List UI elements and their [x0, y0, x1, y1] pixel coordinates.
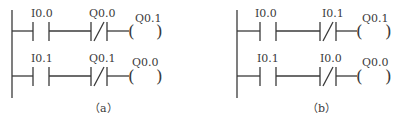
svg-text:): ): [385, 66, 392, 86]
normally-closed-contact-icon: [91, 67, 107, 86]
normally-open-contact-icon: [260, 67, 276, 86]
diagram-caption: （a）: [89, 102, 118, 115]
output-coil-icon: ( ): [128, 66, 163, 86]
svg-text:(: (: [356, 66, 363, 86]
contact-label: Q0.1: [89, 52, 116, 65]
rung-2: I0.1 Q0.1 ( ) Q0.0: [12, 52, 163, 86]
ladder-diagrams: I0.0 Q0.0 ( ) Q0.1 I0.1: [0, 0, 397, 120]
coil-label: Q0.1: [135, 12, 162, 25]
rung-2: I0.1 I0.0 ( ) Q0.0: [237, 52, 392, 86]
normally-open-contact-icon: [260, 22, 276, 41]
rung-1: I0.0 Q0.0 ( ) Q0.1: [12, 7, 163, 41]
contact-label: I0.1: [322, 7, 344, 20]
svg-text:): ): [156, 66, 163, 86]
diagram-caption: （b）: [307, 102, 336, 115]
contact-label: I0.1: [257, 52, 279, 65]
ladder-diagram-a: I0.0 Q0.0 ( ) Q0.1 I0.1: [12, 7, 163, 115]
ladder-diagram-b: I0.0 I0.1 ( ) Q0.1 I0.1: [237, 7, 392, 115]
normally-open-contact-icon: [33, 22, 49, 41]
normally-closed-contact-icon: [91, 22, 107, 41]
coil-label: Q0.0: [362, 56, 389, 69]
contact-label: Q0.0: [89, 7, 116, 20]
contact-label: I0.0: [320, 52, 342, 65]
normally-closed-contact-icon: [320, 22, 336, 41]
output-coil-icon: ( ): [356, 66, 392, 86]
coil-label: Q0.1: [362, 12, 389, 25]
contact-label: I0.0: [255, 7, 277, 20]
rung-1: I0.0 I0.1 ( ) Q0.1: [237, 7, 392, 41]
coil-label: Q0.0: [132, 56, 159, 69]
normally-open-contact-icon: [33, 67, 49, 86]
contact-label: I0.0: [31, 7, 53, 20]
normally-closed-contact-icon: [320, 67, 336, 86]
svg-text:(: (: [128, 21, 135, 41]
svg-text:(: (: [128, 66, 135, 86]
contact-label: I0.1: [31, 52, 53, 65]
